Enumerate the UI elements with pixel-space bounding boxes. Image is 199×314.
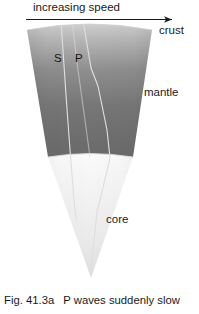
label-s-wave: S bbox=[54, 53, 62, 65]
label-increasing-speed: increasing speed bbox=[33, 2, 120, 14]
figure-container: increasing speed crust mantle core S P F… bbox=[0, 0, 199, 314]
figure-caption: Fig. 41.3aP waves suddenly slow bbox=[4, 294, 180, 306]
label-core: core bbox=[106, 214, 128, 226]
wedge-body bbox=[0, 0, 199, 314]
increasing-speed-arrow bbox=[26, 16, 172, 22]
label-p-wave: P bbox=[75, 53, 83, 65]
earth-cross-section-diagram bbox=[0, 0, 199, 314]
caption-text: P waves suddenly slow bbox=[63, 294, 180, 306]
label-crust: crust bbox=[159, 25, 184, 37]
label-mantle: mantle bbox=[144, 87, 179, 99]
caption-number: Fig. 41.3a bbox=[4, 294, 54, 306]
